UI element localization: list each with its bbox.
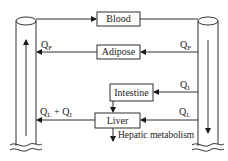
adipose-label: Adipose: [97, 47, 140, 57]
hepatic-metabolism-label: Hepatic metabolism: [118, 131, 194, 141]
left-vessel: [10, 17, 42, 151]
right-vessel: [192, 17, 224, 151]
flow-label-qf-left: QF: [41, 40, 52, 52]
intestine-label: Intestine: [110, 88, 153, 98]
flow-label-qi-right: QI: [180, 80, 190, 92]
flow-label-ql-plus-qi-left: QL + QI: [40, 107, 72, 119]
liver-label: Liver: [95, 116, 140, 126]
blood-label: Blood: [97, 14, 140, 24]
flow-label-ql-right: QL: [179, 107, 191, 119]
flow-label-qf-right: QF: [180, 40, 191, 52]
